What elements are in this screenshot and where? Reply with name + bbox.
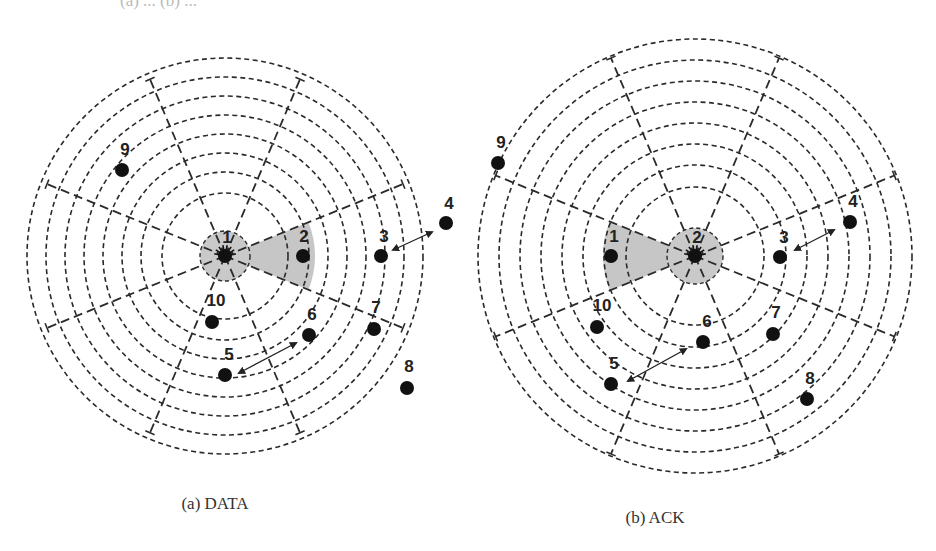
- node-4: 4: [439, 194, 454, 230]
- node-dot: [400, 381, 414, 395]
- node-dot: [843, 215, 857, 229]
- node-label: 1: [609, 227, 618, 246]
- node-label: 8: [805, 369, 814, 388]
- node-label: 9: [120, 140, 129, 159]
- node-label: 4: [848, 192, 858, 211]
- caption-data: (a) DATA: [181, 494, 249, 513]
- node-10: 10: [590, 296, 611, 334]
- panel-ack-diagram: 2 1345678910 (b) ACK: [478, 39, 912, 527]
- node-dot: [604, 249, 618, 263]
- node-dot: [773, 250, 787, 264]
- sector-spoke: [150, 256, 225, 433]
- node-dot: [590, 320, 604, 334]
- bidirectional-link-arrow: [239, 343, 296, 373]
- sector-spoke: [47, 184, 225, 256]
- sector-spoke: [225, 256, 300, 433]
- node-dot: [604, 377, 618, 391]
- center-node-dot: [688, 249, 702, 263]
- node-label: 2: [299, 227, 308, 246]
- node-9: 9: [491, 133, 506, 170]
- node-8: 8: [400, 357, 414, 395]
- center-node-label: 1: [222, 228, 231, 247]
- node-4: 4: [843, 192, 858, 229]
- node-dot: [302, 328, 316, 342]
- figure-canvas: (a) ... (b) ... 1 2345678910 (a) DATA 2 …: [0, 0, 936, 551]
- node-label: 10: [207, 291, 226, 310]
- node-3: 3: [773, 228, 789, 264]
- sector-spoke: [47, 256, 225, 328]
- node-5: 5: [218, 345, 234, 382]
- node-label: 5: [224, 345, 233, 364]
- node-dot: [296, 249, 310, 263]
- caption-ack: (b) ACK: [625, 508, 685, 527]
- node-6: 6: [302, 305, 317, 342]
- node-label: 10: [593, 296, 612, 315]
- node-label: 8: [404, 357, 413, 376]
- node-dot: [218, 368, 232, 382]
- node-label: 6: [702, 312, 711, 331]
- bidirectional-link-arrow: [393, 232, 432, 250]
- sector-spoke: [150, 79, 225, 256]
- center-node-label: 2: [692, 228, 701, 247]
- node-dot: [115, 163, 129, 177]
- node-9: 9: [115, 140, 130, 177]
- node-3: 3: [374, 227, 389, 263]
- node-dot: [367, 322, 381, 336]
- node-5: 5: [604, 354, 619, 391]
- node-label: 3: [379, 227, 388, 246]
- node-dot: [205, 315, 219, 329]
- node-dot: [800, 392, 814, 406]
- node-label: 5: [609, 354, 618, 373]
- node-6: 6: [696, 312, 712, 349]
- node-8: 8: [800, 369, 815, 406]
- node-10: 10: [205, 291, 225, 329]
- node-dot: [766, 327, 780, 341]
- bidirectional-link-arrow: [628, 349, 686, 381]
- node-label: 6: [307, 305, 316, 324]
- node-label: 9: [496, 133, 505, 152]
- node-label: 3: [779, 228, 788, 247]
- node-dot: [439, 216, 453, 230]
- panel-data-diagram: 1 2345678910 (a) DATA: [27, 58, 454, 513]
- node-label: 4: [444, 194, 454, 213]
- node-dot: [374, 249, 388, 263]
- node-7: 7: [766, 303, 781, 341]
- node-label: 7: [771, 303, 780, 322]
- cut-off-caption-text: (a) ... (b) ...: [120, 0, 197, 10]
- node-label: 7: [371, 298, 380, 317]
- node-dot: [696, 335, 710, 349]
- node-dot: [491, 156, 505, 170]
- sector-spoke: [225, 79, 300, 256]
- center-node-dot: [218, 249, 232, 263]
